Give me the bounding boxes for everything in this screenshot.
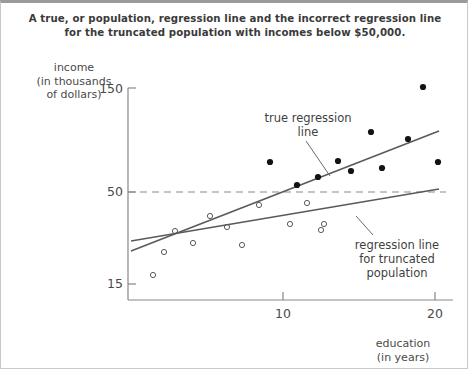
data-point-open <box>318 227 323 232</box>
data-point-open <box>256 202 261 207</box>
data-point-open <box>321 221 326 226</box>
data-point-filled <box>315 174 321 180</box>
data-point-filled <box>420 84 426 90</box>
truncated-regression-line <box>131 189 439 241</box>
data-point-filled <box>368 129 374 135</box>
data-point-open <box>161 249 166 254</box>
data-point-filled <box>405 136 411 142</box>
data-point-open <box>150 272 155 277</box>
data-point-filled <box>294 182 300 188</box>
data-point-open <box>190 240 195 245</box>
chart-figure: A true, or population, regression line a… <box>0 0 468 369</box>
leader-line-truncated-regression <box>356 216 373 235</box>
data-point-filled <box>348 168 354 174</box>
data-point-open <box>207 213 212 218</box>
plot-area <box>1 3 468 369</box>
annotation-truncated-regression-line: regression line for truncated population <box>339 238 455 280</box>
data-point-open <box>304 200 309 205</box>
data-point-open <box>239 242 244 247</box>
data-point-filled <box>335 158 341 164</box>
leader-line-true-regression <box>306 141 330 176</box>
data-point-open <box>287 221 292 226</box>
data-point-filled <box>379 165 385 171</box>
data-point-filled <box>267 159 273 165</box>
annotation-true-regression-line: true regression line <box>256 111 360 139</box>
data-point-filled <box>435 159 441 165</box>
